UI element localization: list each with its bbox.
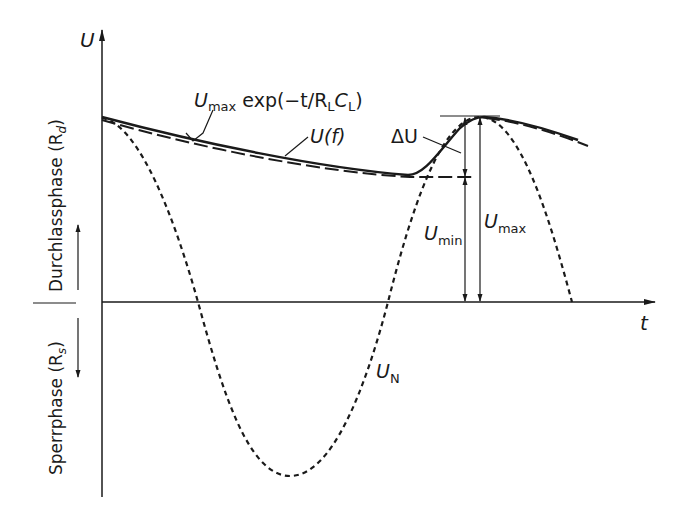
y-axis-label: U bbox=[80, 28, 95, 52]
exp-label: Umax exp(−t/RLCL) bbox=[194, 89, 363, 114]
curve-exp-decay bbox=[102, 120, 475, 177]
curve-exp-decay-2 bbox=[486, 118, 588, 146]
rectifier-voltage-diagram: U t Durchlassphase (Rd) Sperrphase (Rs) … bbox=[0, 0, 688, 521]
umax-label: Umax bbox=[484, 210, 527, 236]
umin-label: Umin bbox=[424, 222, 462, 248]
svg-text:Durchlassphase (Rd): Durchlassphase (Rd) bbox=[46, 119, 69, 292]
exp-leader-line bbox=[186, 110, 213, 141]
svg-text:Sperrphase (Rs): Sperrphase (Rs) bbox=[46, 341, 69, 475]
sperrphase-label: Sperrphase (Rs) bbox=[46, 341, 69, 475]
durchlassphase-label: Durchlassphase (Rd) bbox=[46, 119, 69, 292]
un-label: UN bbox=[376, 360, 400, 386]
x-axis-label: t bbox=[640, 311, 649, 335]
curve-un bbox=[102, 117, 572, 476]
delta-u-label: ΔU bbox=[391, 125, 418, 147]
uf-label: U(f) bbox=[310, 125, 345, 147]
uf-leader-line bbox=[285, 137, 308, 156]
